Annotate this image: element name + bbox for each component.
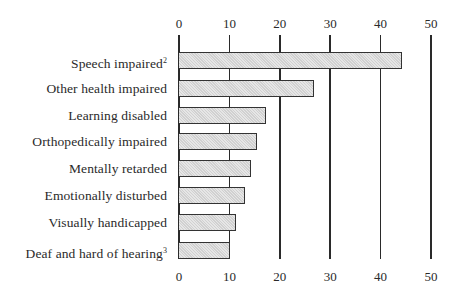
bar-emotionally-disturbed: [179, 187, 245, 204]
x-tick-label-bottom: 30: [315, 269, 345, 285]
x-tick-label-bottom: 0: [164, 269, 194, 285]
footnote-marker: 2: [163, 56, 167, 65]
x-tick-label-top: 40: [366, 16, 396, 32]
bar-other-health-impaired: [179, 80, 314, 97]
category-label: Orthopedically impaired: [32, 133, 167, 150]
x-tick-label-top: 20: [265, 16, 295, 32]
category-label: Mentally retarded: [69, 160, 167, 177]
category-label-text: Other health impaired: [46, 81, 167, 96]
x-tick-label-top: 50: [416, 16, 446, 32]
category-label: Deaf and hard of hearing3: [26, 242, 167, 262]
x-tick-label-bottom: 20: [265, 269, 295, 285]
category-label: Speech impaired2: [71, 52, 167, 72]
category-label-text: Orthopedically impaired: [32, 134, 167, 149]
category-label-text: Emotionally disturbed: [45, 188, 167, 203]
category-label-text: Visually handicapped: [48, 215, 167, 230]
category-label: Visually handicapped: [48, 214, 167, 231]
category-label-text: Deaf and hard of hearing: [26, 246, 163, 261]
x-tick-label-top: 0: [164, 16, 194, 32]
footnote-marker: 3: [163, 246, 167, 255]
bar-speech-impaired: [179, 52, 402, 69]
x-tick-label-bottom: 10: [214, 269, 244, 285]
category-label-text: Speech impaired: [71, 56, 163, 71]
x-tick-label-bottom: 50: [416, 269, 446, 285]
bar-visually-handicapped: [179, 214, 236, 231]
x-tick-label-top: 30: [315, 16, 345, 32]
bar-mentally-retarded: [179, 160, 251, 177]
bar-orthopedically-impaired: [179, 133, 257, 150]
category-label-text: Learning disabled: [68, 108, 167, 123]
category-label-text: Mentally retarded: [69, 161, 167, 176]
category-label: Learning disabled: [68, 107, 167, 124]
bar-deaf-and-hard-of-hearing: [179, 242, 230, 259]
gridline-50: [430, 35, 432, 259]
x-tick-label-top: 10: [214, 16, 244, 32]
horizontal-bar-chart: 0010102020303040405050Speech impaired2Ot…: [0, 0, 460, 301]
x-tick-label-bottom: 40: [366, 269, 396, 285]
category-label: Emotionally disturbed: [45, 187, 167, 204]
bar-learning-disabled: [179, 107, 266, 124]
category-label: Other health impaired: [46, 80, 167, 97]
